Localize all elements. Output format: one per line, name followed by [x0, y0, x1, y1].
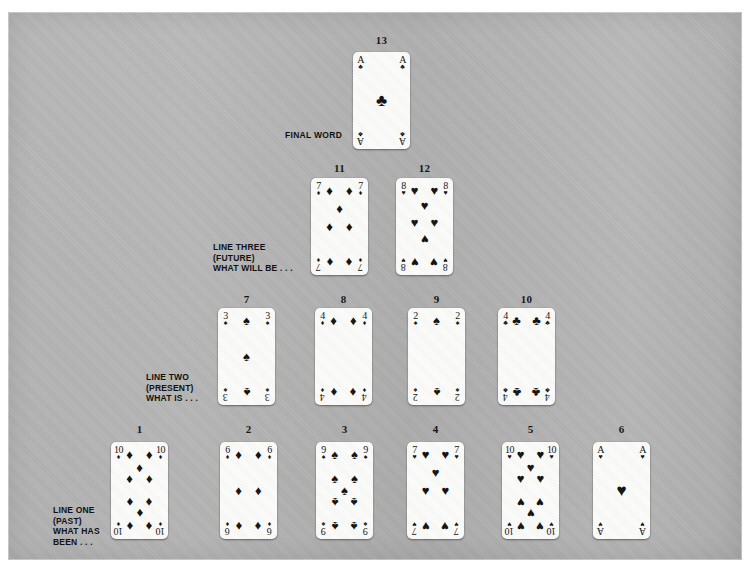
diamond-pip-icon: ♦ [142, 520, 156, 533]
diamond-pip-icon: ♦ [346, 386, 360, 399]
card-corner-index-tr: 9♠ [360, 445, 371, 461]
spade-pip-icon: ♠ [347, 520, 361, 533]
card-corner-index-tr: 4♦ [359, 311, 370, 327]
card-pip-field: ♥ [606, 446, 637, 535]
card-number-label: 13 [353, 34, 410, 46]
card-corner-index-tr: 10♦ [155, 445, 166, 461]
playing-card[interactable]: 9♠9♠9♠9♠♠♠♠♠♠♠♠♠♠ [316, 442, 373, 539]
diamond-icon: ♦ [355, 256, 366, 263]
playing-card[interactable]: 7♦7♦7♦7♦♦♦♦♦♦♦♦ [311, 178, 368, 275]
spade-pip-icon: ♠ [347, 472, 361, 485]
spade-icon: ♠ [360, 520, 371, 527]
card-pip-field: ♦♦♦♦♦♦♦ [324, 182, 355, 271]
heart-pip-icon: ♥ [533, 448, 547, 461]
spade-pip-icon: ♠ [347, 448, 361, 461]
card-rank: 7 [355, 263, 366, 272]
heart-pip-icon: ♥ [514, 520, 528, 533]
card-pip-field: ♥♥♥♥♥♥♥♥♥♥ [515, 446, 546, 535]
diamond-pip-icon: ♦ [251, 484, 265, 497]
card-number-label: 9 [408, 293, 465, 305]
club-icon: ♣ [397, 64, 408, 71]
card-corner-index-br: 2♠ [452, 386, 463, 402]
card-corner-index-bl: 3♠ [220, 386, 231, 402]
screenshot-root: 110♦10♦10♦10♦♦♦♦♦♦♦♦♦♦♦26♦6♦6♦6♦♦♦♦♦♦♦39… [0, 0, 750, 584]
heart-pip-icon: ♥ [408, 256, 422, 269]
playing-card[interactable]: 2♠2♠2♠2♠♠♠ [408, 308, 465, 405]
club-icon: ♣ [355, 64, 366, 71]
card-number-label: 12 [396, 162, 453, 174]
club-pip-icon: ♣ [373, 92, 391, 109]
diamond-pip-icon: ♦ [251, 448, 265, 461]
spade-icon: ♠ [452, 320, 463, 327]
heart-icon: ♥ [440, 190, 451, 197]
card-pip-field: ♥♥♥♥♥♥♥ [420, 446, 451, 535]
diamond-pip-icon: ♦ [142, 448, 156, 461]
heart-pip-icon: ♥ [533, 520, 547, 533]
heart-pip-icon: ♥ [613, 482, 631, 499]
club-pip-icon: ♣ [529, 314, 543, 327]
card-corner-index-tl: 3♠ [220, 311, 231, 327]
playing-card[interactable]: 10♥10♥10♥10♥♥♥♥♥♥♥♥♥♥♥ [502, 442, 559, 539]
spade-pip-icon: ♠ [328, 448, 342, 461]
card-corner-index-br: 10♥ [546, 520, 557, 536]
heart-pip-icon: ♥ [533, 472, 547, 485]
diamond-icon: ♦ [359, 320, 370, 327]
diamond-icon: ♦ [155, 454, 166, 461]
diamond-pip-icon: ♦ [133, 507, 147, 520]
spade-icon: ♠ [220, 320, 231, 327]
heart-pip-icon: ♥ [427, 184, 441, 197]
diamond-icon: ♦ [355, 190, 366, 197]
line-two-label: LINE TWO (PRESENT) WHAT IS . . . [146, 372, 198, 404]
card-corner-index-br: 3♠ [262, 386, 273, 402]
diamond-pip-icon: ♦ [251, 520, 265, 533]
heart-icon: ♥ [637, 454, 648, 461]
card-corner-index-br: 4♣ [542, 386, 553, 402]
card-corner-index-tr: 4♣ [542, 311, 553, 327]
card-rank: 4 [359, 393, 370, 402]
diamond-pip-icon: ♦ [232, 520, 246, 533]
club-pip-icon: ♣ [529, 386, 543, 399]
playing-card[interactable]: 4♣4♣4♣4♣♣♣♣♣ [498, 308, 555, 405]
card-number-label: 8 [315, 293, 372, 305]
heart-pip-icon: ♥ [438, 448, 452, 461]
card-corner-index-tl: A♣ [355, 55, 366, 71]
playing-card[interactable]: A♥A♥A♥A♥♥ [593, 442, 650, 539]
card-pip-field: ♠♠♠♠♠♠♠♠♠ [329, 446, 360, 535]
card-rank: 7 [451, 527, 462, 536]
spade-pip-icon: ♠ [328, 520, 342, 533]
card-rank: 9 [360, 527, 371, 536]
spade-pip-icon: ♠ [430, 386, 444, 399]
card-corner-index-tr: 7♥ [451, 445, 462, 461]
playing-card[interactable]: A♣A♣A♣A♣♣ [353, 52, 410, 149]
spade-pip-icon: ♠ [240, 314, 254, 327]
card-corner-index-tr: 2♠ [452, 311, 463, 327]
playing-card[interactable]: 8♥8♥8♥8♥♥♥♥♥♥♥♥♥ [396, 178, 453, 275]
card-number-label: 7 [218, 293, 275, 305]
diamond-pip-icon: ♦ [323, 220, 337, 233]
card-rank: 4 [542, 393, 553, 402]
card-rank: A [637, 527, 648, 536]
card-corner-index-tr: 7♦ [355, 181, 366, 197]
diamond-pip-icon: ♦ [327, 386, 341, 399]
card-rank: 2 [410, 393, 421, 402]
playing-card[interactable]: 7♥7♥7♥7♥♥♥♥♥♥♥♥ [407, 442, 464, 539]
card-corner-index-br: 10♦ [155, 520, 166, 536]
card-rank: A [595, 527, 606, 536]
card-rank: A [355, 137, 366, 146]
card-rank: 6 [264, 527, 275, 536]
playing-card[interactable]: 6♦6♦6♦6♦♦♦♦♦♦♦ [220, 442, 277, 539]
spade-icon: ♠ [220, 386, 231, 393]
card-pip-field: ♣♣♣♣ [511, 312, 542, 401]
card-number-label: 11 [311, 162, 368, 174]
line-one-label: LINE ONE (PAST) WHAT HAS BEEN . . . [53, 505, 100, 547]
card-corner-index-tr: 3♠ [262, 311, 273, 327]
club-pip-icon: ♣ [510, 386, 524, 399]
playing-card[interactable]: 3♠3♠3♠3♠♠♠♠ [218, 308, 275, 405]
playing-card[interactable]: 4♦4♦4♦4♦♦♦♦♦ [315, 308, 372, 405]
heart-pip-icon: ♥ [418, 233, 432, 246]
card-number-label: 3 [316, 423, 373, 435]
playing-card[interactable]: 10♦10♦10♦10♦♦♦♦♦♦♦♦♦♦♦ [111, 442, 168, 539]
card-pip-field: ♠♠♠ [231, 312, 262, 401]
heart-pip-icon: ♥ [438, 484, 452, 497]
heart-pip-icon: ♥ [429, 466, 443, 479]
